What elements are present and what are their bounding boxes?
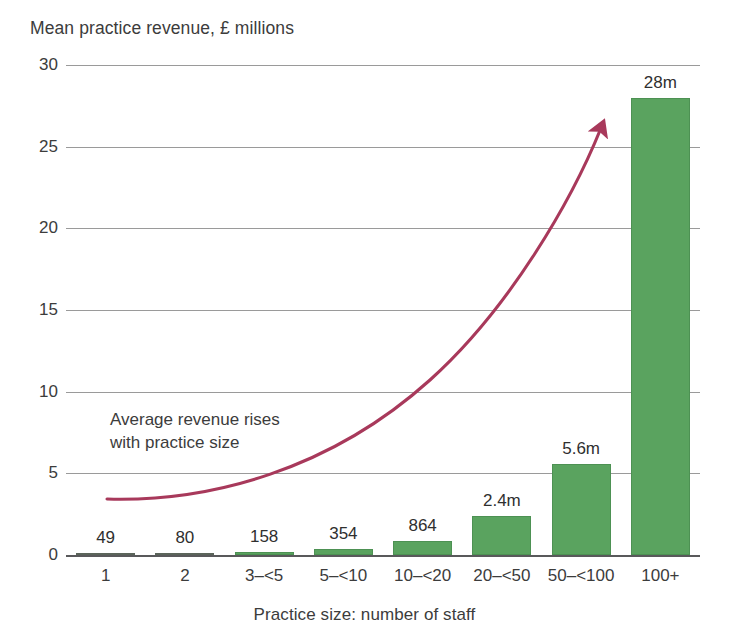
bar-value-label: 5.6m: [562, 439, 600, 459]
bar: [631, 98, 690, 555]
bar-value-label: 864: [408, 516, 436, 536]
bar-value-label: 49: [96, 528, 115, 548]
revenue-bar-chart: Mean practice revenue, £ millions 302520…: [0, 0, 729, 643]
gridline: [66, 228, 700, 229]
gridline: [66, 65, 700, 66]
y-axis-tick-label: 20: [6, 218, 58, 238]
x-axis-tick-label: 10–<20: [394, 566, 451, 586]
bar-value-label: 80: [175, 528, 194, 548]
y-axis-tick-label: 5: [6, 463, 58, 483]
y-axis-title: Mean practice revenue, £ millions: [30, 18, 294, 39]
y-axis-tick-label: 25: [6, 137, 58, 157]
gridline: [66, 147, 700, 148]
annotation-line-1: Average revenue rises: [110, 410, 280, 429]
x-axis-title: Practice size: number of staff: [0, 605, 729, 625]
bar: [76, 553, 135, 556]
bar-value-label: 354: [329, 524, 357, 544]
bar-value-label: 28m: [644, 73, 677, 93]
gridline: [66, 310, 700, 311]
y-axis-tick-label: 30: [6, 55, 58, 75]
bar: [552, 464, 611, 555]
y-axis-tick-label: 10: [6, 382, 58, 402]
x-axis-baseline: [66, 555, 700, 557]
chart-annotation-note: Average revenue riseswith practice size: [110, 408, 280, 454]
x-axis-tick-label: 3–<5: [245, 566, 283, 586]
bar-value-label: 158: [250, 527, 278, 547]
page-bottom-sliver: [0, 636, 729, 643]
x-axis-tick-label: 20–<50: [473, 566, 530, 586]
x-axis-tick-label: 50–<100: [548, 566, 615, 586]
annotation-line-2: with practice size: [110, 433, 239, 452]
bar: [472, 516, 531, 555]
bar-value-label: 2.4m: [483, 491, 521, 511]
y-axis-tick-labels: 302520151050: [0, 65, 58, 555]
x-axis-tick-label: 5–<10: [320, 566, 368, 586]
bar: [393, 541, 452, 555]
bar: [155, 553, 214, 556]
x-axis-tick-label: 100+: [641, 566, 679, 586]
x-axis-tick-label: 1: [101, 566, 110, 586]
gridline: [66, 392, 700, 393]
plot-area: 49801583548642.4m5.6m28m: [66, 65, 700, 555]
x-axis-tick-label: 2: [180, 566, 189, 586]
bar: [314, 549, 373, 555]
y-axis-tick-label: 0: [6, 545, 58, 565]
bar: [235, 552, 294, 555]
y-axis-tick-label: 15: [6, 300, 58, 320]
